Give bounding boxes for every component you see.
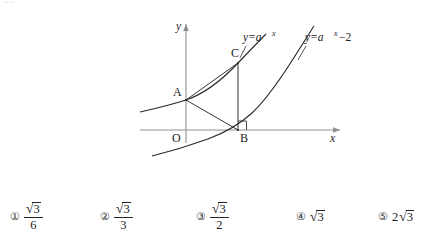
origin-label: O [172, 131, 181, 145]
fraction-numerator-3: √ 3 [210, 202, 229, 217]
answer-marker-5: ⑤ [378, 212, 388, 223]
answer-value-3: √ 3 2 [210, 202, 229, 232]
figure-svg: A B C O y x y=a x y=a x −2 [0, 8, 426, 183]
fraction-denominator-2: 3 [118, 218, 128, 232]
radicand-2: 3 [122, 202, 130, 216]
curve2-equation-exponent: x [333, 29, 338, 38]
y-axis-label: y [175, 20, 182, 33]
radical-2: √ 3 [116, 202, 131, 216]
answer-value-1: √ 3 6 [24, 202, 43, 232]
radicand-3: 3 [218, 202, 226, 216]
radicand-4: 3 [316, 210, 324, 224]
radicand-1: 3 [32, 202, 40, 216]
curve-y-equals-a-pow-x [140, 34, 266, 112]
clipped-header-text: .... [3, 0, 15, 5]
radicand-5: 3 [406, 210, 414, 224]
fraction-numerator-2: √ 3 [114, 202, 133, 217]
point-a-label: A [173, 85, 182, 99]
curve2-equation-suffix: −2 [339, 31, 351, 43]
radical-coefficient-5: 2 [392, 210, 398, 225]
answer-value-2: √ 3 3 [114, 202, 133, 232]
fraction-denominator-1: 6 [28, 218, 38, 232]
radical-5: √ 3 [399, 210, 414, 224]
answer-marker-1: ① [10, 212, 20, 223]
y-axis-arrow [183, 24, 189, 31]
answer-marker-2: ② [100, 212, 110, 223]
point-b-dot [237, 129, 239, 131]
radical-4: √ 3 [310, 210, 325, 224]
answer-option-1[interactable]: ① √ 3 6 [10, 202, 43, 232]
curve2-equation-base: y=a [304, 31, 324, 44]
curve1-equation-base: y=a [242, 31, 262, 44]
radical-1: √ 3 [26, 202, 41, 216]
x-axis-label: x [329, 132, 336, 144]
answer-option-4[interactable]: ④ √ 3 [296, 210, 325, 224]
answer-choice-row: ① √ 3 6 ② [0, 196, 426, 240]
answer-value-4: √ 3 [310, 210, 325, 224]
radical-3: √ 3 [212, 202, 227, 216]
answer-option-5[interactable]: ⑤ 2 √ 3 [378, 210, 414, 225]
fraction-3: √ 3 2 [210, 202, 229, 232]
curve1-equation-label: y=a x [242, 29, 276, 44]
point-c-label: C [231, 46, 239, 60]
segment-ac [186, 63, 238, 100]
answer-value-5: 2 √ 3 [392, 210, 414, 225]
fraction-2: √ 3 3 [114, 202, 133, 232]
answer-option-2[interactable]: ② √ 3 3 [100, 202, 133, 232]
problem-figure-page: .... [0, 0, 426, 243]
fraction-denominator-3: 2 [214, 218, 224, 232]
answer-marker-4: ④ [296, 212, 306, 223]
coordinate-figure: A B C O y x y=a x y=a x −2 [0, 8, 426, 183]
point-b-label: B [240, 131, 248, 145]
right-angle-mark-at-b [238, 121, 247, 130]
curve1-equation-exponent: x [271, 29, 276, 38]
answer-option-3[interactable]: ③ √ 3 2 [196, 202, 229, 232]
fraction-1: √ 3 6 [24, 202, 43, 232]
point-c-dot [237, 62, 239, 64]
curve2-leader-line [298, 46, 306, 60]
fraction-numerator-1: √ 3 [24, 202, 43, 217]
segment-ab [186, 100, 238, 130]
curve2-equation-label: y=a x −2 [304, 29, 351, 44]
point-a-dot [185, 99, 187, 101]
answer-marker-3: ③ [196, 212, 206, 223]
